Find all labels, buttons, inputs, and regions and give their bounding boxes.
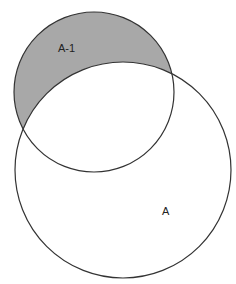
label-a-minus-1: A-1 xyxy=(58,42,75,54)
venn-diagram: A-1 A xyxy=(0,0,236,284)
shaded-crescent-region xyxy=(14,12,174,172)
label-a: A xyxy=(162,205,170,217)
venn-svg: A-1 A xyxy=(0,0,236,284)
